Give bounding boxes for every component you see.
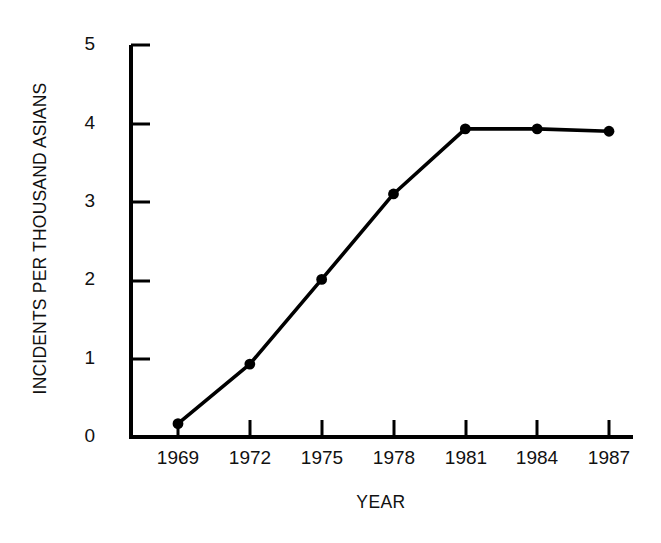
x-tick-label-1975: 1975 [282, 447, 362, 469]
x-axis-title: YEAR [130, 492, 632, 513]
y-tick-label-0: 0 [55, 425, 95, 447]
x-axis-ticks [178, 420, 609, 437]
data-point-1987 [604, 126, 615, 137]
y-tick-label-1: 1 [55, 347, 95, 369]
x-tick-label-1987: 1987 [569, 447, 649, 469]
data-point-1984 [532, 123, 543, 134]
y-axis-ticks [131, 45, 150, 359]
y-tick-label-4: 4 [55, 112, 95, 134]
data-line-incidents [178, 129, 609, 424]
x-tick-label-1978: 1978 [354, 447, 434, 469]
y-tick-label-2: 2 [55, 268, 95, 290]
data-point-1975 [316, 274, 327, 285]
y-tick-label-5: 5 [55, 33, 95, 55]
y-tick-label-3: 3 [55, 190, 95, 212]
x-tick-label-1969: 1969 [138, 447, 218, 469]
data-point-1981 [460, 123, 471, 134]
x-tick-label-1981: 1981 [426, 447, 506, 469]
data-point-1972 [244, 359, 255, 370]
x-tick-label-1984: 1984 [497, 447, 577, 469]
axis-lines [129, 45, 633, 437]
data-point-1969 [173, 418, 184, 429]
data-point-1978 [388, 189, 399, 200]
x-tick-label-1972: 1972 [210, 447, 290, 469]
y-axis-title: INCIDENTS PER THOUSAND ASIANS [30, 29, 51, 449]
data-markers-incidents [173, 123, 615, 429]
line-chart-figure: INCIDENTS PER THOUSAND ASIANS 5 4 3 2 1 … [0, 0, 661, 543]
